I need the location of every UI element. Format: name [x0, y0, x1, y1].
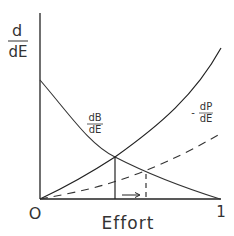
- origin-label: O: [29, 204, 42, 223]
- marginal-penalty-curve: [40, 134, 220, 199]
- x-end-label: 1: [216, 203, 226, 221]
- y-axis-label-denominator: dE: [9, 43, 28, 61]
- x-axis-label: Effort: [102, 213, 155, 233]
- marginal-benefit-curve: [40, 80, 220, 199]
- penalty-label-numerator: dP: [200, 101, 212, 112]
- penalty-label-denominator: dE: [200, 113, 213, 124]
- y-axis-label-numerator: d: [12, 21, 22, 40]
- penalty-label-minus: -: [191, 107, 195, 118]
- marginal-cost-curve: [40, 48, 221, 199]
- effort-diagram: d dE dB dE - dP dE O 1 Effort: [0, 0, 234, 236]
- benefit-label-denominator: dE: [89, 124, 102, 135]
- benefit-label-numerator: dB: [88, 112, 101, 123]
